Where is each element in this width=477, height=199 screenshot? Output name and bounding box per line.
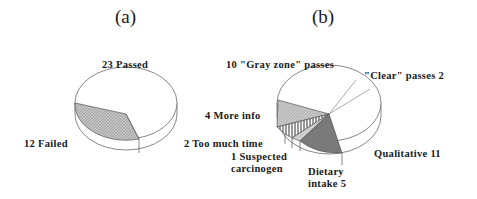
panel-a-title: (a) [115,6,136,28]
label-passed: 23 Passed [102,59,148,71]
label-too-much-time: 2 Too much time [184,138,263,150]
label-suspected-line1: 1 Suspected [231,151,287,163]
label-dietary-line1: Dietary [308,166,344,178]
label-clear-passes: "Clear" passes 2 [364,70,444,82]
label-gray-zone-passes: 10 "Gray zone" passes [226,59,334,71]
label-dietary-line2: intake 5 [308,178,346,190]
label-suspected-line2: carcinogen [231,163,283,175]
pie-a [75,67,177,153]
label-failed: 12 Failed [24,138,68,150]
label-qualitative: Qualitative 11 [374,148,441,160]
panel-b-title: (b) [312,6,334,28]
label-more-info: 4 More info [205,110,261,122]
